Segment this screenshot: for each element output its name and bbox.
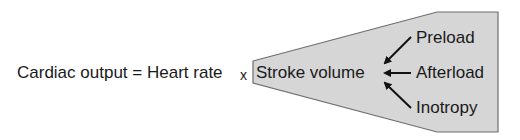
- heart-rate-label: Heart rate: [147, 63, 223, 82]
- multiply-sign: x: [240, 65, 247, 85]
- stroke-volume-label: Stroke volume: [256, 63, 365, 83]
- inotropy-label: Inotropy: [416, 98, 477, 118]
- equation-lhs: Cardiac output = Heart rate: [17, 63, 223, 83]
- equals-sign: =: [132, 63, 142, 82]
- preload-label: Preload: [416, 28, 475, 48]
- afterload-label: Afterload: [416, 63, 484, 83]
- cardiac-output-label: Cardiac output: [17, 63, 128, 82]
